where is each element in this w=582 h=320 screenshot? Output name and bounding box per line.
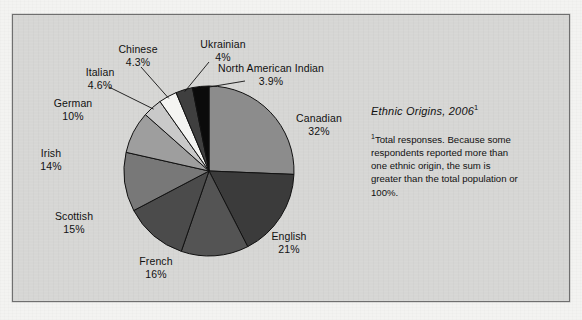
slice-label-irish: Irish 14% [21,147,81,172]
slice-label-english: English 21% [253,230,325,255]
figure-frame: Chinese 4.3% Ukrainian 4% Italian 4.6% N… [12,14,570,302]
slice-label-scottish: Scottish 15% [37,210,111,235]
slice-label-canadian: Canadian 32% [279,112,359,137]
caption-title: Ethnic Origins, 20061 [371,103,521,117]
footnote-text: Total responses. Because some respondent… [371,134,518,198]
leader-line-chinese [141,67,169,98]
caption-block: Ethnic Origins, 20061 1Total responses. … [371,103,521,199]
slice-label-german: German 10% [37,97,109,122]
slice-label-chinese: Chinese 4.3% [99,43,177,68]
slice-label-french: French 16% [121,255,191,280]
caption-footnote: 1Total responses. Because some responden… [371,130,521,199]
slice-label-north-american-indian: North American Indian 3.9% [197,62,345,87]
slice-label-italian: Italian 4.6% [67,66,133,91]
caption-title-superscript: 1 [474,103,478,112]
slice-label-ukrainian: Ukrainian 4% [185,38,261,63]
